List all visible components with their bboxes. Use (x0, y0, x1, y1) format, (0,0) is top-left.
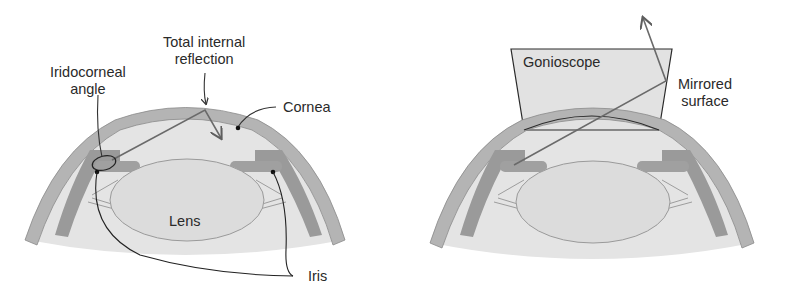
label-line: reflection (163, 51, 245, 68)
label-iris: Iris (308, 268, 327, 285)
label-line: surface (678, 93, 732, 110)
label-lens: Lens (169, 213, 200, 230)
label-cornea: Cornea (283, 99, 331, 116)
label-line: Total internal (163, 34, 245, 51)
cornea-dot (236, 126, 241, 131)
diagram-canvas (0, 0, 785, 298)
label-line: angle (50, 81, 126, 98)
label-gonioscope: Gonioscope (523, 54, 600, 71)
label-total-internal-reflection: Total internal reflection (163, 34, 245, 68)
label-mirrored-surface: Mirrored surface (678, 76, 732, 110)
label-line: Iridocorneal (50, 64, 126, 81)
label-line: Mirrored (678, 76, 732, 93)
reflection-leader (204, 73, 206, 104)
right-iris-right (637, 161, 689, 172)
right-lens (516, 161, 670, 243)
right-iris-left (500, 161, 547, 172)
label-iridocorneal-angle: Iridocorneal angle (50, 64, 126, 98)
